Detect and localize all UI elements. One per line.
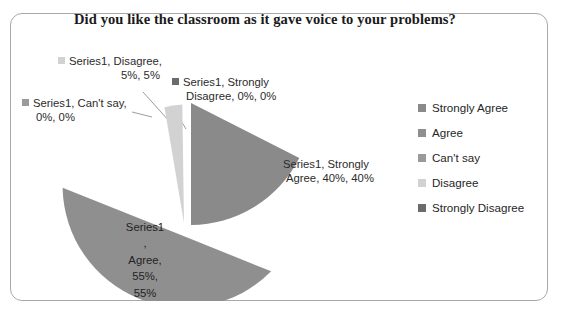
data-label-swatch-strongly-agree	[272, 160, 279, 167]
legend-swatch-disagree	[418, 179, 426, 187]
legend-label-cant-say: Can't say	[432, 151, 480, 164]
data-label-agree: Series1 , Agree, 55%, 55%	[112, 219, 178, 301]
legend-item-strongly-disagree: Strongly Disagree	[418, 195, 546, 220]
legend-label-strongly-agree: Strongly Agree	[432, 101, 508, 114]
legend-item-agree: Agree	[418, 120, 546, 145]
legend-label-strongly-disagree: Strongly Disagree	[432, 201, 524, 214]
legend-item-disagree: Disagree	[418, 170, 546, 195]
legend-swatch-strongly-disagree	[418, 204, 426, 212]
data-label-strongly-agree: Series1, Strongly Agree, 40%, 40%	[272, 157, 374, 185]
data-label-disagree: Series1, Disagree, 5%, 5%	[58, 54, 162, 82]
legend-item-cant-say: Can't say	[418, 145, 546, 170]
data-label-strongly-disagree: Series1, Strongly Disagree, 0%, 0%	[172, 75, 276, 103]
data-label-cant-say: Series1, Can't say, 0%, 0%	[22, 96, 127, 124]
legend-item-strongly-agree: Strongly Agree	[418, 95, 546, 120]
legend-label-disagree: Disagree	[432, 176, 478, 189]
legend-label-agree: Agree	[432, 126, 463, 139]
data-label-swatch-cant-say	[22, 99, 29, 106]
chart-screenshot: Did you like the classroom as it gave vo…	[0, 0, 561, 316]
data-label-swatch-disagree	[58, 57, 65, 64]
legend-swatch-agree	[418, 129, 426, 137]
leader-line-cant-say	[132, 112, 152, 117]
pie-slice-disagree	[165, 105, 185, 224]
legend-swatch-strongly-agree	[418, 104, 426, 112]
chart-legend: Strongly Agree Agree Can't say Disagree …	[418, 95, 546, 220]
data-label-swatch-strongly-disagree	[172, 78, 179, 85]
legend-swatch-cant-say	[418, 154, 426, 162]
